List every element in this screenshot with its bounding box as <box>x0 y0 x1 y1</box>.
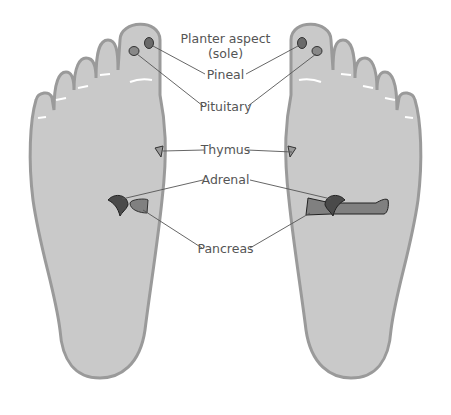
left-pineal-point <box>145 38 154 49</box>
right-pituitary-point <box>312 47 322 56</box>
reflexology-diagram <box>0 0 451 415</box>
label-pineal: Pineal <box>195 67 256 82</box>
right-foot <box>286 24 421 378</box>
right-sole <box>286 24 421 378</box>
title-line-1: Planter aspect <box>175 31 276 46</box>
label-pancreas: Pancreas <box>190 241 261 256</box>
right-pineal-point <box>298 38 307 49</box>
label-adrenal: Adrenal <box>195 172 256 187</box>
title-line-2: (sole) <box>175 46 276 61</box>
label-thymus: Thymus <box>195 142 256 157</box>
label-pituitary: Pituitary <box>195 99 256 114</box>
left-foot <box>30 24 165 378</box>
diagram-title: Planter aspect (sole) <box>175 31 276 61</box>
